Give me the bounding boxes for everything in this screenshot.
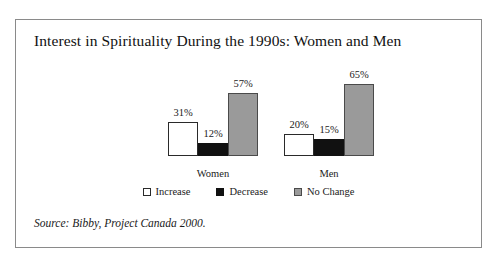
bar-women-increase[interactable]: 31% bbox=[168, 122, 198, 156]
legend-item-decrease[interactable]: Decrease bbox=[216, 186, 267, 197]
legend-swatch-increase-icon bbox=[143, 188, 151, 196]
source-note: Source: Bibby, Project Canada 2000. bbox=[34, 217, 206, 229]
bar-value-label: 31% bbox=[173, 107, 192, 118]
group-label-women: Women bbox=[197, 168, 229, 179]
legend-label: Increase bbox=[156, 186, 191, 197]
plot-area: 31% 12% 57% Women bbox=[16, 20, 481, 247]
bar-rect[interactable] bbox=[284, 134, 314, 156]
figure-frame: Interest in Spirituality During the 1990… bbox=[15, 19, 482, 248]
bar-women-nochange[interactable]: 57% bbox=[228, 93, 258, 156]
bars-row: 31% 12% 57% bbox=[168, 93, 258, 156]
bar-rect[interactable] bbox=[344, 84, 374, 156]
bar-rect[interactable] bbox=[168, 122, 198, 156]
bar-value-label: 15% bbox=[319, 124, 338, 135]
bar-value-label: 65% bbox=[349, 69, 368, 80]
figure-inner: Interest in Spirituality During the 1990… bbox=[16, 20, 481, 247]
bar-value-label: 20% bbox=[289, 119, 308, 130]
legend-swatch-decrease-icon bbox=[216, 188, 224, 196]
bar-men-nochange[interactable]: 65% bbox=[344, 84, 374, 156]
bar-rect[interactable] bbox=[198, 143, 228, 156]
bar-men-decrease[interactable]: 15% bbox=[314, 139, 344, 156]
legend-item-nochange[interactable]: No Change bbox=[294, 186, 355, 197]
bar-men-increase[interactable]: 20% bbox=[284, 134, 314, 156]
legend-item-increase[interactable]: Increase bbox=[143, 186, 191, 197]
bars-row: 20% 15% 65% bbox=[284, 84, 374, 156]
legend-label: No Change bbox=[307, 186, 355, 197]
bar-value-label: 57% bbox=[233, 78, 252, 89]
chart-legend: Increase Decrease No Change bbox=[16, 186, 481, 197]
bar-rect[interactable] bbox=[314, 139, 344, 156]
bar-rect[interactable] bbox=[228, 93, 258, 156]
group-label-men: Men bbox=[319, 168, 338, 179]
bar-value-label: 12% bbox=[203, 128, 222, 139]
legend-swatch-nochange-icon bbox=[294, 188, 302, 196]
bar-women-decrease[interactable]: 12% bbox=[198, 143, 228, 156]
legend-label: Decrease bbox=[229, 186, 267, 197]
